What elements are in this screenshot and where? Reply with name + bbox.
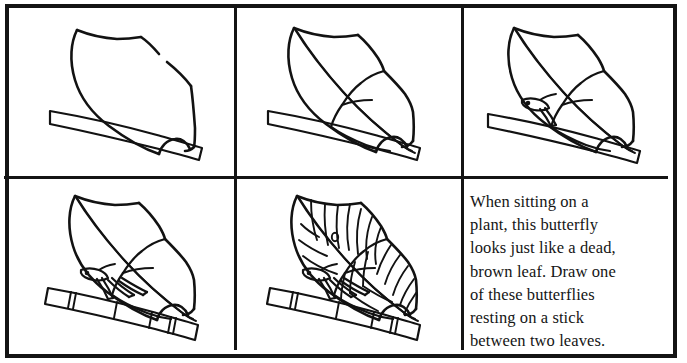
panel-step-2 (239, 8, 458, 176)
caption-line-3: looks just like a dead, (470, 236, 672, 259)
eye-dot (85, 271, 90, 276)
head-and-antenna-step4 (81, 264, 115, 280)
caption-line-7: between two leaves. (470, 329, 672, 352)
instruction-caption: When sitting on a plant, this butterfly … (470, 190, 672, 356)
tutorial-page: When sitting on a plant, this butterfly … (0, 0, 687, 363)
stick-step1 (50, 111, 202, 160)
panel-step-4 (9, 182, 234, 354)
stick-step5 (267, 288, 420, 340)
caption-line-1: When sitting on a (470, 190, 672, 213)
caption-line-5: of these butterflies (470, 283, 672, 306)
hindwing-veins (341, 245, 416, 314)
eye-dot (307, 271, 312, 276)
eye-dot (526, 101, 531, 106)
caption-line-6: resting on a stick (470, 306, 672, 329)
midrib-lines-step4 (75, 196, 196, 321)
stick-step4 (45, 288, 198, 340)
panel-step-1 (9, 8, 234, 176)
caption-line-2: plant, this butterfly (470, 213, 672, 236)
panel-step-5 (239, 182, 458, 354)
grid-divider-horizontal (4, 176, 668, 179)
leaf-wing-outline-step1 (71, 30, 195, 154)
head-and-antenna-step3 (522, 94, 556, 110)
caption-line-4: brown leaf. Draw one (470, 260, 672, 283)
front-leg-step3 (540, 108, 556, 126)
panel-step-3 (466, 8, 673, 176)
midrib-lines-step3 (514, 28, 635, 153)
midrib-lines-step5 (297, 196, 418, 321)
